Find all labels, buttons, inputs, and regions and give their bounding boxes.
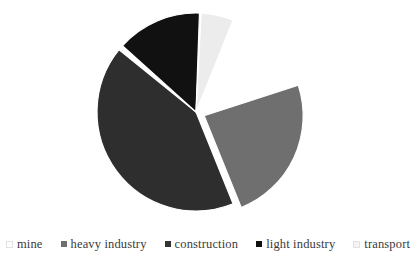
legend-item-label: construction [175,237,239,251]
legend-item-label: mine [17,237,43,251]
legend-item-light-industry[interactable]: light industry [256,237,335,251]
legend-item-label: heavy industry [71,237,147,251]
legend-item-construction[interactable]: construction [165,237,239,251]
pie-slice-group [97,13,303,211]
chart-legend: mineheavy industryconstructionlight indu… [0,231,416,257]
legend-item-heavy-industry[interactable]: heavy industry [61,237,147,251]
legend-swatch-icon [256,241,262,247]
legend-swatch-icon [6,241,13,248]
legend-swatch-icon [61,241,67,247]
legend-swatch-icon [353,241,360,248]
legend-item-label: transport [364,237,410,251]
legend-item-mine[interactable]: mine [6,237,43,251]
pie-svg [0,0,416,228]
legend-swatch-icon [165,241,171,247]
legend-item-label: light industry [266,237,335,251]
pie-plot-area [0,0,416,228]
pie-chart-figure: mineheavy industryconstructionlight indu… [0,0,416,269]
legend-item-transport[interactable]: transport [353,237,410,251]
